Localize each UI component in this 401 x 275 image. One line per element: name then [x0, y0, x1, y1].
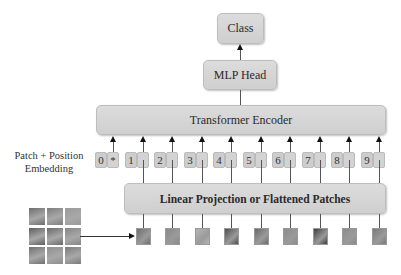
position-embedding-6: 6	[272, 152, 284, 168]
arrow-up-icon	[228, 136, 234, 142]
arrow-up-icon	[258, 136, 264, 142]
image-patch-2	[165, 228, 180, 245]
embedding-label-line1: Patch + Position	[10, 149, 88, 162]
projection-to-token-connector	[202, 160, 203, 183]
class-token: *	[107, 152, 119, 168]
image-patch-9	[372, 228, 387, 245]
linear-projection-box: Linear Projection or Flattened Patches	[124, 183, 386, 214]
projection-to-token-connector	[231, 160, 232, 183]
arrow-up-icon	[110, 136, 116, 142]
position-embedding-5: 5	[243, 152, 255, 168]
input-image-patch	[65, 208, 81, 225]
arrow-right-icon	[129, 233, 135, 239]
position-embedding-2: 2	[154, 152, 166, 168]
patch-to-projection-connector	[320, 214, 321, 228]
arrow-up-icon	[346, 136, 352, 142]
image-patch-7	[313, 228, 328, 245]
token-to-encoder-connector	[379, 141, 380, 152]
input-image-patch	[47, 228, 63, 245]
linear-projection-label: Linear Projection or Flattened Patches	[160, 193, 350, 205]
projection-to-token-connector	[320, 160, 321, 183]
head-to-class-connector	[240, 50, 241, 60]
projection-to-token-connector	[172, 160, 173, 183]
transformer-encoder-box: Transformer Encoder	[96, 105, 386, 135]
class-label: Class	[227, 21, 253, 36]
patch-to-projection-connector	[172, 214, 173, 228]
input-image-patch	[47, 247, 63, 264]
input-image-patch	[47, 208, 63, 225]
token-to-encoder-connector	[143, 141, 144, 152]
position-embedding-0: 0	[95, 152, 107, 168]
position-embedding-8: 8	[331, 152, 343, 168]
position-embedding-1: 1	[125, 152, 137, 168]
projection-to-token-connector	[261, 160, 262, 183]
position-embedding-4: 4	[213, 152, 225, 168]
projection-to-token-connector	[379, 160, 380, 183]
arrow-up-icon	[376, 136, 382, 142]
embedding-label-line2: Embedding	[10, 162, 88, 175]
arrow-up-icon	[317, 136, 323, 142]
token-to-encoder-connector	[349, 141, 350, 152]
position-embedding-7: 7	[302, 152, 314, 168]
image-patch-4	[224, 228, 239, 245]
input-image-patch	[65, 247, 81, 264]
patch-to-projection-connector	[379, 214, 380, 228]
token-to-encoder-connector	[172, 141, 173, 152]
projection-to-token-connector	[349, 160, 350, 183]
token-to-encoder-connector	[202, 141, 203, 152]
patch-to-projection-connector	[349, 214, 350, 228]
arrow-up-icon	[199, 136, 205, 142]
patch-to-projection-connector	[261, 214, 262, 228]
input-image-patch	[29, 228, 45, 245]
arrow-up-icon	[169, 136, 175, 142]
encoder-to-head-connector	[240, 90, 241, 105]
token-to-encoder-connector	[113, 141, 114, 152]
position-embedding-3: 3	[184, 152, 196, 168]
patch-to-projection-connector	[202, 214, 203, 228]
patch-to-projection-connector	[143, 214, 144, 228]
mlp-head-label: MLP Head	[214, 68, 267, 83]
mlp-head-box: MLP Head	[203, 60, 277, 90]
projection-to-token-connector	[143, 160, 144, 183]
arrow-up-icon	[287, 136, 293, 142]
position-embedding-9: 9	[361, 152, 373, 168]
transformer-encoder-label: Transformer Encoder	[190, 113, 293, 128]
image-patch-8	[342, 228, 357, 245]
image-patch-3	[195, 228, 210, 245]
patch-to-projection-connector	[231, 214, 232, 228]
token-to-encoder-connector	[320, 141, 321, 152]
token-to-encoder-connector	[231, 141, 232, 152]
image-patch-6	[283, 228, 298, 245]
input-image-patch	[65, 228, 81, 245]
token-to-encoder-connector	[261, 141, 262, 152]
arrow-up-icon	[237, 44, 243, 50]
image-patch-5	[254, 228, 269, 245]
token-to-encoder-connector	[290, 141, 291, 152]
image-to-patches-connector	[80, 236, 130, 237]
class-output-box: Class	[217, 13, 264, 44]
input-image-patch	[29, 208, 45, 225]
arrow-up-icon	[140, 136, 146, 142]
patch-to-projection-connector	[290, 214, 291, 228]
input-image-patch	[29, 247, 45, 264]
projection-to-token-connector	[290, 160, 291, 183]
image-patch-1	[136, 228, 151, 245]
embedding-label: Patch + Position Embedding	[10, 149, 88, 175]
